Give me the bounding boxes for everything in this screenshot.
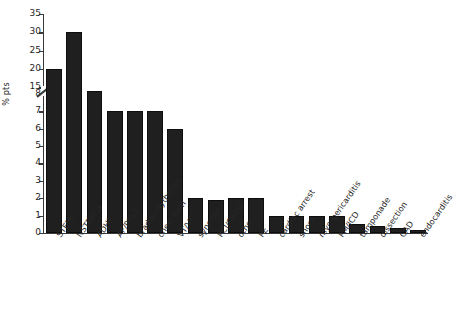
- plot-area: 0123456781520253035: [44, 14, 428, 233]
- y-tick-label: 25: [30, 45, 41, 56]
- y-tick-label: 4: [35, 157, 41, 168]
- bar: [46, 69, 62, 233]
- y-tick-label: 2: [35, 192, 41, 203]
- y-tick-label: 6: [35, 123, 41, 134]
- y-tick-label: 35: [30, 8, 41, 19]
- y-tick-label: 20: [30, 63, 41, 74]
- bar: [66, 32, 82, 233]
- y-axis-title: % pts: [2, 64, 11, 124]
- y-tick-label: 5: [35, 140, 41, 151]
- x-axis-tick-labels: STEMINSTEACSADHFAF/PSVTbradiarrhythmiasc…: [44, 234, 435, 309]
- y-tick-label: 1: [35, 210, 41, 221]
- y-tick-label: 7: [35, 105, 41, 116]
- bar-series: [44, 14, 428, 233]
- y-tick-label: 0: [35, 227, 41, 238]
- y-tick-label: 30: [30, 26, 41, 37]
- bar: [107, 111, 123, 233]
- y-tick-label: 3: [35, 175, 41, 186]
